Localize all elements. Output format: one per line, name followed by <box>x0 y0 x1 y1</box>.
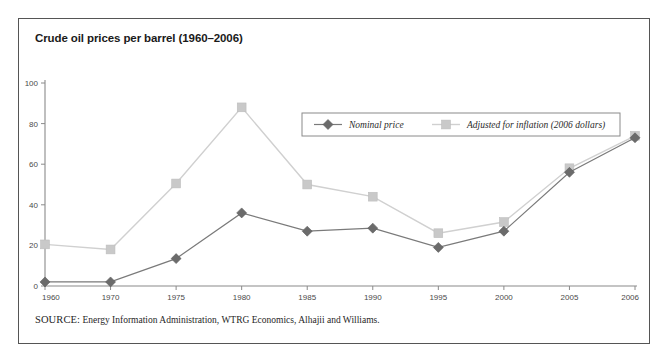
legend-label: Adjusted for inflation (2006 dollars) <box>466 120 605 131</box>
data-point-marker <box>499 218 508 227</box>
data-point-marker <box>237 103 246 112</box>
y-axis-tick-label: 20 <box>29 241 38 250</box>
x-axis-tick-label: 2006 <box>621 293 639 302</box>
data-point-marker <box>106 277 116 287</box>
y-axis-tick-label: 100 <box>25 79 39 88</box>
chart-series <box>40 133 640 287</box>
data-point-marker <box>303 180 312 189</box>
x-axis-tick-label: 1990 <box>364 293 382 302</box>
source-label: SOURCE: <box>35 314 80 325</box>
x-axis-tick-label: 1970 <box>102 293 120 302</box>
chart-legend: Nominal priceAdjusted for inflation (200… <box>302 113 620 136</box>
data-point-marker <box>368 223 378 233</box>
data-point-marker <box>368 192 377 201</box>
y-axis-tick-label: 40 <box>29 201 38 210</box>
data-point-marker <box>434 229 443 238</box>
data-point-marker <box>237 208 247 218</box>
y-axis-tick-label: 80 <box>29 120 38 129</box>
data-point-marker <box>172 179 181 188</box>
y-axis-tick-label: 0 <box>34 282 39 291</box>
x-axis-tick-label: 1975 <box>167 293 185 302</box>
x-axis-tick-label: 2000 <box>495 293 513 302</box>
data-point-marker <box>40 277 50 287</box>
x-axis-tick-label: 1960 <box>42 293 60 302</box>
legend-marker <box>442 120 451 129</box>
figure-frame: Crude oil prices per barrel (1960–2006) … <box>18 18 650 344</box>
data-point-marker <box>41 240 50 249</box>
data-point-marker <box>171 254 181 264</box>
y-axis-tick-label: 60 <box>29 160 38 169</box>
line-chart: 0204060801001960197019751980198519901995… <box>19 19 651 345</box>
x-axis-tick-label: 1980 <box>233 293 251 302</box>
legend-label: Nominal price <box>348 120 404 130</box>
x-axis-tick-label: 2005 <box>561 293 579 302</box>
source-note: SOURCE: Energy Information Administratio… <box>35 314 380 325</box>
x-axis-tick-label: 1985 <box>298 293 316 302</box>
data-point-marker <box>302 226 312 236</box>
data-point-marker <box>433 242 443 252</box>
source-text: Energy Information Administration, WTRG … <box>80 315 380 325</box>
data-point-marker <box>106 245 115 254</box>
chart-plot-area: 0204060801001960197019751980198519901995… <box>19 19 651 345</box>
x-axis-tick-label: 1995 <box>429 293 447 302</box>
